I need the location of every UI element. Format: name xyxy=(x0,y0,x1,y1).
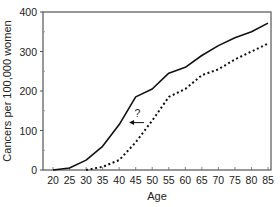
y-tick-label: 200 xyxy=(19,85,37,97)
x-tick-label: 80 xyxy=(246,174,258,186)
x-tick-label: 65 xyxy=(196,174,208,186)
y-axis: 0100200300400 xyxy=(19,6,45,176)
y-tick-label: 0 xyxy=(31,164,37,176)
x-tick-label: 50 xyxy=(146,174,158,186)
x-tick-label: 30 xyxy=(80,174,92,186)
x-tick-label: 35 xyxy=(97,174,109,186)
data-series xyxy=(53,23,268,170)
plot-frame xyxy=(43,12,271,170)
y-tick-label: 400 xyxy=(19,6,37,18)
annotation-arrow: ? xyxy=(129,107,144,126)
solid-line xyxy=(53,23,268,170)
x-tick-label: 70 xyxy=(213,174,225,186)
x-tick-label: 75 xyxy=(229,174,241,186)
x-axis-title: Age xyxy=(147,190,167,202)
x-tick-label: 60 xyxy=(179,174,191,186)
y-axis-title: Cancers per 100,000 women xyxy=(1,20,13,161)
line-chart: 0100200300400 20253035404550556065707580… xyxy=(0,0,280,207)
x-tick-label: 45 xyxy=(130,174,142,186)
x-tick-label: 40 xyxy=(113,174,125,186)
annotation-label: ? xyxy=(135,107,141,119)
x-tick-label: 55 xyxy=(163,174,175,186)
x-tick-label: 20 xyxy=(47,174,59,186)
y-tick-label: 300 xyxy=(19,46,37,58)
arrow-left-icon xyxy=(129,120,134,125)
x-tick-label: 25 xyxy=(64,174,76,186)
dotted-line xyxy=(86,44,268,170)
y-tick-label: 100 xyxy=(19,125,37,137)
x-tick-label: 85 xyxy=(262,174,274,186)
